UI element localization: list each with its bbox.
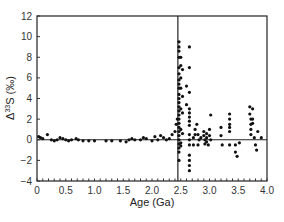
data-point	[171, 133, 174, 136]
x-tick-label: 1.5	[116, 185, 130, 196]
data-point	[61, 137, 64, 140]
data-point	[251, 122, 254, 125]
scatter-chart: −4−2024681012 00.51.01.52.02.53.03.54.0 …	[0, 0, 284, 222]
data-point	[179, 128, 182, 131]
data-point	[205, 140, 208, 143]
data-point	[195, 123, 198, 126]
data-point	[150, 139, 153, 142]
data-point	[162, 136, 165, 139]
data-point	[177, 97, 180, 100]
data-point	[251, 118, 254, 121]
data-point	[209, 113, 212, 116]
data-point	[209, 138, 212, 141]
data-point	[46, 133, 49, 136]
data-point	[177, 93, 180, 96]
y-tick-label: 12	[21, 11, 33, 22]
data-point	[219, 134, 222, 137]
data-point	[188, 66, 191, 69]
data-point	[177, 151, 180, 154]
data-point	[199, 136, 202, 139]
data-point	[177, 50, 180, 53]
x-tick-label: 1.0	[88, 185, 102, 196]
data-point	[188, 169, 191, 172]
data-point	[165, 138, 168, 141]
x-tick-label: 0.5	[59, 185, 73, 196]
data-point	[188, 120, 191, 123]
y-tick-label: −4	[21, 176, 33, 187]
data-point	[173, 130, 176, 133]
y-tick-label: −2	[21, 155, 33, 166]
data-point	[205, 132, 208, 135]
data-point	[177, 138, 180, 141]
data-point	[188, 154, 191, 157]
data-point	[50, 138, 53, 141]
x-tick-label: 4.0	[260, 185, 274, 196]
data-point	[177, 83, 180, 86]
data-point	[41, 137, 44, 140]
y-axis-title-rest: S (‰)	[4, 76, 16, 105]
data-point	[188, 116, 191, 119]
data-point	[145, 137, 148, 140]
data-point	[249, 133, 252, 136]
data-point	[179, 141, 182, 144]
data-point	[208, 128, 211, 131]
data-point	[256, 130, 259, 133]
data-point	[221, 143, 224, 146]
data-point	[207, 143, 210, 146]
data-point	[219, 126, 222, 129]
data-point	[177, 118, 180, 121]
y-tick-label: 6	[26, 72, 32, 83]
data-point	[104, 139, 107, 142]
data-point	[194, 133, 197, 136]
data-point	[185, 85, 188, 88]
data-points	[37, 40, 263, 172]
y-axis: −4−2024681012	[21, 11, 40, 187]
data-point	[228, 130, 231, 133]
data-point	[185, 103, 188, 106]
data-point	[93, 139, 96, 142]
data-point	[175, 123, 178, 126]
data-point	[188, 45, 191, 48]
data-point	[177, 122, 180, 125]
data-point	[228, 143, 231, 146]
data-point	[181, 111, 184, 114]
data-point	[181, 132, 184, 135]
data-point	[188, 111, 191, 114]
data-point	[77, 138, 80, 141]
data-point	[248, 105, 251, 108]
data-point	[179, 87, 182, 90]
data-point	[58, 136, 61, 139]
x-tick-label: 3.5	[231, 185, 245, 196]
svg-text:Δ33S (‰): Δ33S (‰)	[4, 76, 16, 120]
data-point	[196, 143, 199, 146]
data-point	[179, 107, 182, 110]
data-point	[56, 138, 59, 141]
data-point	[238, 141, 241, 144]
data-point	[70, 138, 73, 141]
data-point	[156, 138, 159, 141]
data-point	[119, 139, 122, 142]
data-point	[177, 159, 180, 162]
data-point	[110, 139, 113, 142]
data-point	[234, 151, 237, 154]
data-point	[81, 139, 84, 142]
data-point	[87, 139, 90, 142]
data-point	[236, 155, 239, 158]
x-axis-title: Age (Ga)	[130, 196, 175, 208]
data-point	[192, 143, 195, 146]
data-point	[153, 135, 156, 138]
data-point	[67, 139, 70, 142]
x-tick-label: 3.0	[203, 185, 217, 196]
data-point	[168, 137, 171, 140]
data-point	[177, 72, 180, 75]
data-point	[194, 128, 197, 131]
data-point	[188, 138, 191, 141]
data-point	[130, 137, 133, 140]
data-point	[196, 133, 199, 136]
data-point	[260, 136, 263, 139]
data-point	[125, 140, 128, 143]
data-point	[177, 45, 180, 48]
data-point	[228, 112, 231, 115]
data-point	[188, 159, 191, 162]
data-point	[188, 164, 191, 167]
